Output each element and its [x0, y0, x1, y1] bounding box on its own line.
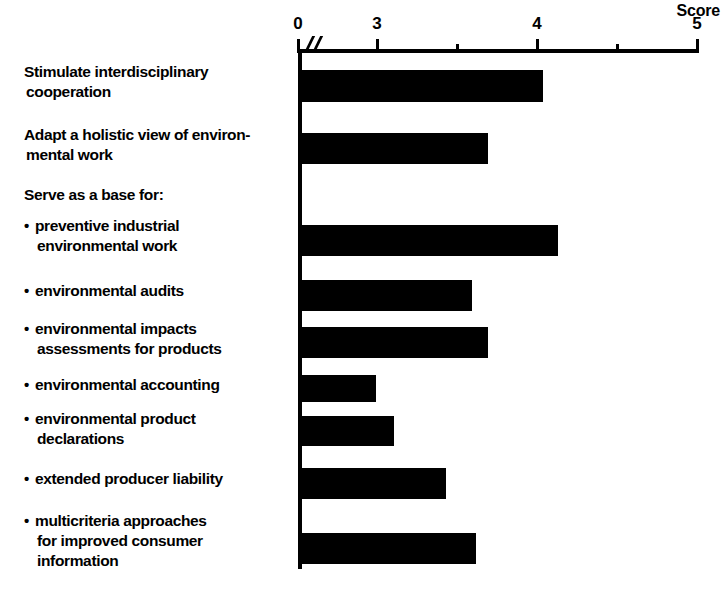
bar: [300, 468, 446, 499]
x-axis-tick-label: 5: [692, 14, 701, 34]
category-label: Stimulate interdisciplinarycooperation: [24, 62, 292, 102]
x-axis-tick: [696, 39, 699, 53]
category-label-line: Stimulate interdisciplinary: [24, 62, 292, 82]
bar: [300, 416, 394, 446]
category-label: •environmental accounting: [24, 375, 303, 395]
axis-break-icon: [302, 36, 324, 53]
category-label-line: assessments for products: [35, 339, 303, 359]
category-label-line: information: [35, 551, 303, 571]
category-label: •environmental impactsassessments for pr…: [24, 319, 303, 359]
bullet-icon: •: [24, 281, 29, 301]
category-label-line: environmental impacts: [35, 319, 303, 339]
category-label-line: Adapt a holistic view of environ-: [24, 125, 292, 145]
bar: [300, 327, 488, 358]
bar: [300, 225, 558, 256]
bullet-icon: •: [24, 216, 29, 236]
category-label-line: cooperation: [24, 82, 292, 102]
bullet-icon: •: [24, 511, 29, 531]
category-label: •multicriteria approachesfor improved co…: [24, 511, 303, 571]
category-label: Adapt a holistic view of environ-mental …: [24, 125, 292, 165]
category-label-line: preventive industrial: [35, 216, 303, 236]
x-axis-tick: [456, 44, 459, 53]
axis-line: [298, 49, 698, 53]
category-label-line: Serve as a base for:: [24, 185, 292, 205]
bullet-icon: •: [24, 319, 29, 339]
category-label: •environmental audits: [24, 281, 303, 301]
bullet-icon: •: [24, 409, 29, 429]
bar: [300, 375, 376, 402]
category-label-line: environmental audits: [35, 281, 303, 301]
x-axis-tick-label: 4: [532, 14, 541, 34]
category-label: •preventive industrialenvironmental work: [24, 216, 303, 256]
category-label-line: environmental product: [35, 409, 303, 429]
score-bar-chart: Score 0345 Stimulate interdisciplinaryco…: [0, 0, 728, 595]
category-label-line: multicriteria approaches: [35, 511, 303, 531]
bar: [300, 280, 472, 311]
x-axis-tick: [616, 44, 619, 53]
x-axis-tick-label: 3: [372, 14, 381, 34]
x-axis-tick-label: 0: [293, 14, 302, 34]
category-label-line: extended producer liability: [35, 469, 303, 489]
bar: [300, 533, 476, 564]
category-label: •environmental productdeclarations: [24, 409, 303, 449]
category-label-line: declarations: [35, 429, 303, 449]
category-label-line: mental work: [24, 145, 292, 165]
x-axis-tick: [536, 39, 539, 53]
bar: [300, 133, 488, 164]
category-label-line: environmental accounting: [35, 375, 303, 395]
category-label: •extended producer liability: [24, 469, 303, 489]
x-axis-tick: [376, 39, 379, 53]
bullet-icon: •: [24, 375, 29, 395]
category-label: Serve as a base for:: [24, 185, 292, 205]
bar: [300, 70, 543, 102]
bullet-icon: •: [24, 469, 29, 489]
category-label-line: for improved consumer: [35, 531, 303, 551]
category-label-line: environmental work: [35, 236, 303, 256]
